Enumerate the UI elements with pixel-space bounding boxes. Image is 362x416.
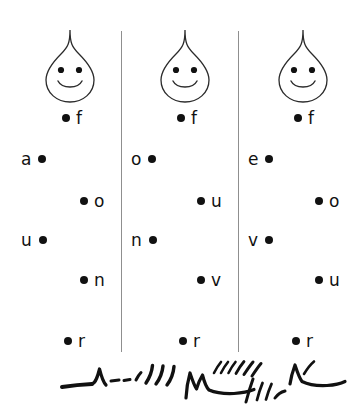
letter-marker: n	[131, 229, 157, 251]
letter-marker: u	[21, 229, 47, 251]
letter-label: o	[329, 193, 339, 210]
bullet-dot-icon	[38, 155, 46, 163]
column-divider-2	[238, 31, 239, 352]
letter-label: e	[248, 151, 258, 168]
bullet-dot-icon	[62, 114, 70, 122]
drawing-canvas: faounrfounvrfeovur	[0, 0, 362, 416]
bullet-dot-icon	[80, 197, 88, 205]
bullet-dot-icon	[294, 114, 302, 122]
letter-marker: u	[315, 269, 340, 291]
letter-marker: r	[292, 330, 313, 352]
letter-label: a	[21, 151, 31, 168]
smiling-teardrop-face-icon	[270, 27, 336, 105]
letter-label: u	[329, 272, 340, 289]
smiling-teardrop-face-icon	[152, 27, 218, 105]
bullet-dot-icon	[292, 337, 300, 345]
letter-label: o	[94, 193, 104, 210]
bullet-dot-icon	[265, 236, 273, 244]
letter-label: f	[76, 110, 82, 127]
letter-marker: o	[80, 190, 104, 212]
smiling-teardrop-face-icon	[37, 27, 103, 105]
letter-label: u	[21, 232, 32, 249]
letter-marker: v	[248, 229, 273, 251]
letter-label: r	[193, 333, 200, 350]
bullet-dot-icon	[179, 337, 187, 345]
letter-marker: o	[315, 190, 339, 212]
letter-marker: n	[80, 269, 105, 291]
letter-label: o	[131, 151, 141, 168]
bullet-dot-icon	[80, 276, 88, 284]
letter-label: r	[78, 333, 85, 350]
bullet-dot-icon	[197, 276, 205, 284]
bullet-dot-icon	[265, 155, 273, 163]
bullet-dot-icon	[149, 236, 157, 244]
letter-label: f	[191, 110, 197, 127]
letter-marker: u	[197, 190, 222, 212]
bullet-dot-icon	[177, 114, 185, 122]
letter-marker: v	[197, 269, 221, 291]
bullet-dot-icon	[197, 197, 205, 205]
bullet-dot-icon	[315, 276, 323, 284]
letter-label: r	[306, 333, 313, 350]
letter-marker: a	[21, 148, 46, 170]
letter-marker: e	[248, 148, 273, 170]
bullet-dot-icon	[64, 337, 72, 345]
letter-marker: f	[294, 107, 314, 129]
letter-marker: r	[179, 330, 200, 352]
letter-label: n	[94, 272, 105, 289]
column-divider-1	[121, 31, 122, 352]
handwritten-scribble	[58, 356, 348, 408]
letter-marker: f	[62, 107, 82, 129]
bullet-dot-icon	[148, 155, 156, 163]
letter-label: f	[308, 110, 314, 127]
bullet-dot-icon	[39, 236, 47, 244]
letter-marker: o	[131, 148, 156, 170]
letter-label: n	[131, 232, 142, 249]
letter-marker: f	[177, 107, 197, 129]
letter-marker: r	[64, 330, 85, 352]
letter-label: u	[211, 193, 222, 210]
bullet-dot-icon	[315, 197, 323, 205]
letter-label: v	[211, 272, 221, 289]
letter-label: v	[248, 232, 258, 249]
